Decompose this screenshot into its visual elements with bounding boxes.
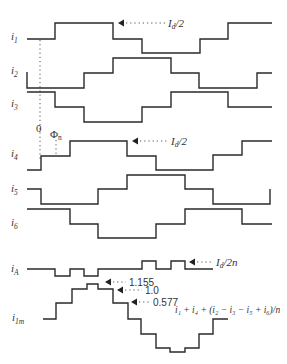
waveforms [27, 23, 272, 352]
annotation-id2-mid: Id/2 [132, 135, 187, 149]
label-i5: i5 [11, 182, 18, 197]
arrow-left-icon [117, 287, 123, 294]
annotation-label: Id/2 [170, 135, 187, 149]
waveform-i5 [27, 175, 270, 204]
label-i1m: i1m [12, 311, 25, 326]
waveform-i3 [27, 92, 272, 122]
annotation-id2-top: Id/2 [118, 17, 184, 31]
waveform-i2 [27, 58, 272, 88]
formula-label: i₁ + i₄ + (i₂ − i₃ − i₅ + i₆)/n [175, 305, 280, 316]
waveform-diagram: i1i2i3i4i5i6iAi1m Id/2Id/2Id/2n1.1551.00… [0, 0, 287, 364]
annotation-label: Id/2n [215, 256, 238, 270]
label-i2: i2 [11, 64, 18, 79]
waveform-i6 [27, 209, 272, 238]
label-i6: i6 [11, 216, 18, 231]
zero-label: 0 [36, 122, 42, 134]
phase-label: Φn [50, 128, 62, 142]
label-i1: i1 [11, 30, 18, 45]
annotation-label: Id/2 [167, 17, 184, 31]
waveform-i1 [27, 23, 272, 53]
label-i3: i3 [11, 97, 18, 112]
arrow-left-icon [132, 138, 138, 145]
waveform-i4 [27, 141, 272, 170]
arrow-left-icon [118, 20, 124, 27]
arrow-left-icon [105, 279, 111, 286]
waveform-iA [27, 261, 213, 276]
arrow-left-icon [131, 299, 137, 306]
arrow-left-icon [189, 259, 195, 266]
label-iA: iA [11, 262, 19, 277]
waveform-i1m [43, 284, 228, 352]
waveform-labels: i1i2i3i4i5i6iAi1m [11, 30, 25, 326]
annotation-id2n: Id/2n [189, 256, 238, 270]
label-i4: i4 [11, 147, 18, 162]
annotation-v0577: 0.577 [131, 297, 178, 308]
annotation-label: 1.0 [145, 285, 159, 296]
